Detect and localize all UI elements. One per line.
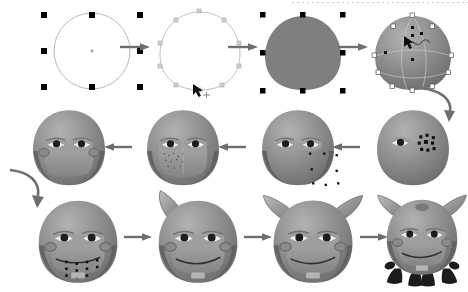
tutorial-sheet xyxy=(0,0,468,292)
eye-left-complete xyxy=(389,137,412,150)
page-edge-dotted-line xyxy=(292,2,468,3)
teeth xyxy=(191,273,205,279)
eye-right-nodes[interactable] xyxy=(418,134,436,152)
teeth xyxy=(71,273,85,279)
step-add-muzzle xyxy=(128,104,238,190)
step-draw-mouth xyxy=(24,194,132,288)
flat-filled-shape[interactable] xyxy=(265,16,341,90)
step-add-first-horn xyxy=(144,194,252,288)
arrow-step1-to-step2 xyxy=(120,42,150,52)
step-add-cheek-shading xyxy=(243,104,353,190)
forehead-tuft xyxy=(415,203,429,211)
step-add-legs-final xyxy=(376,192,468,290)
teeth xyxy=(306,273,320,279)
teeth xyxy=(416,266,428,271)
circle-shape xyxy=(54,13,130,89)
head-shape[interactable] xyxy=(377,110,449,185)
step-fill-flat-gray xyxy=(248,6,358,98)
step-create-eyes xyxy=(358,104,468,190)
cursor-on-path-node xyxy=(193,84,210,98)
step-add-second-horn xyxy=(258,192,368,288)
